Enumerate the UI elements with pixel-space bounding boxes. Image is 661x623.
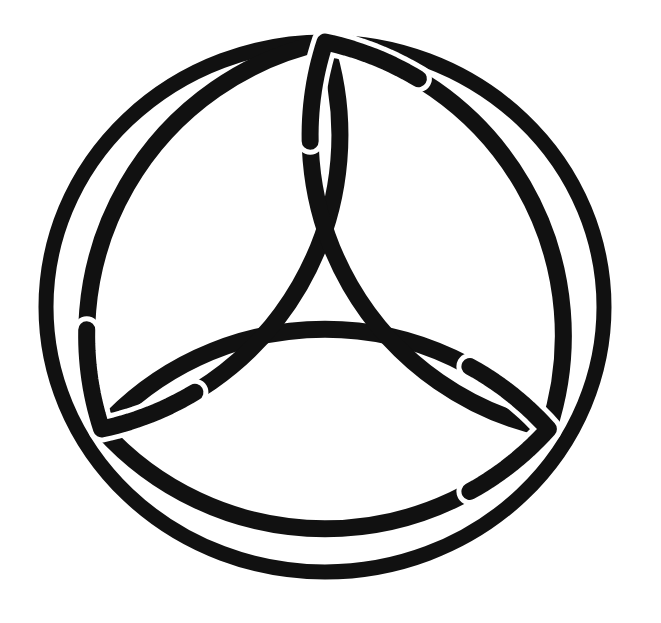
- image-canvas: triquetra-in-circle: [0, 0, 661, 623]
- triquetra-symbol: triquetra-in-circle: [0, 0, 661, 623]
